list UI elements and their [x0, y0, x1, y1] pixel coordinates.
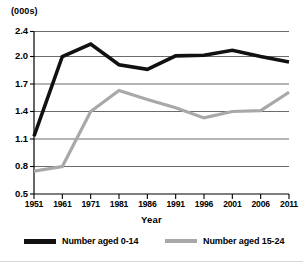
x-tick-label-1991: 1991 — [161, 199, 191, 209]
x-tick-label-1996: 1996 — [189, 199, 219, 209]
y-tick-label-1.7: 1.7 — [6, 79, 28, 89]
legend-item-1: Number aged 15-24 — [165, 234, 284, 248]
bottom-divider — [0, 261, 303, 262]
y-tick-label-2.0: 2.0 — [6, 51, 28, 61]
y-tick-label-0.8: 0.8 — [6, 161, 28, 171]
x-tick-label-1981: 1981 — [104, 199, 134, 209]
x-tick-label-1986: 1986 — [132, 199, 162, 209]
x-tick-label-2001: 2001 — [217, 199, 247, 209]
x-tick-label-2011: 2011 — [274, 199, 303, 209]
legend-item-0: Number aged 0-14 — [24, 234, 138, 248]
x-tick-label-1971: 1971 — [76, 199, 106, 209]
legend-swatch-0-icon — [24, 239, 56, 244]
data-series-group — [34, 44, 289, 171]
x-tick-label-2006: 2006 — [246, 199, 276, 209]
y-tick-label-1.4: 1.4 — [6, 106, 28, 116]
y-tick-label-0.5: 0.5 — [6, 189, 28, 199]
chart-figure: (000s) 0.50.81.11.41.72.02.4 19511961197… — [0, 0, 303, 264]
y-tick-label-1.1: 1.1 — [6, 134, 28, 144]
y-tick-label-2.4: 2.4 — [6, 26, 28, 36]
chart-legend: Number aged 0-14 Number aged 15-24 — [0, 234, 303, 256]
series-line-0 — [34, 44, 289, 136]
legend-label-1: Number aged 15-24 — [203, 236, 284, 246]
x-tick-label-1961: 1961 — [47, 199, 77, 209]
legend-swatch-1-icon — [165, 239, 197, 243]
x-axis-title: Year — [0, 214, 303, 225]
series-line-1 — [34, 90, 289, 171]
x-tick-label-1951: 1951 — [19, 199, 49, 209]
legend-label-0: Number aged 0-14 — [62, 236, 138, 246]
